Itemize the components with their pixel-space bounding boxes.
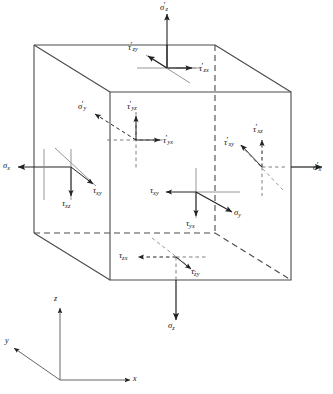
tau-xy-prime-label: τ′xy [224, 136, 234, 147]
sigma-y-prime-arrow [95, 114, 136, 140]
sigma-z-label: σz [168, 321, 175, 331]
tau-zx-prime-label: τ′zx [199, 62, 209, 73]
y-axis-label: y [5, 337, 9, 345]
tau-xy-label: τxy [93, 186, 102, 196]
tau-zy-label: τzy [191, 267, 200, 277]
stress-diagram-canvas [0, 0, 333, 394]
coordinate-axes [14, 308, 130, 380]
tau-zy-arrow [176, 257, 191, 269]
sigma-y-label: σy [234, 208, 241, 218]
tau-xz-prime-label: τ′xz [253, 123, 263, 134]
cube-hidden-edges [34, 45, 291, 280]
sigma-y-prime-label: σ′y [78, 100, 87, 111]
y-axis-arrow [14, 348, 60, 380]
back-left-face-stress-arrows [95, 112, 165, 168]
bottom-face-stress-arrows [138, 238, 206, 320]
tau-yx-prime-label: τ′yx [163, 134, 173, 145]
tau-yz-prime-label: τ′yz [127, 100, 137, 111]
top-face-stress-arrows [137, 14, 200, 83]
tau-xy-prime-arrow [241, 145, 262, 167]
tau-xy-arrow [71, 167, 93, 184]
left-face-stress-arrows [18, 148, 96, 200]
sigma-y-arrow [196, 192, 232, 212]
tau-zx-label: τzx [119, 251, 128, 261]
sigma-x-label: σx [3, 161, 10, 171]
tau-xz-label: τxz [62, 199, 71, 209]
cube-solid-edges [34, 45, 291, 280]
tau-xy-front-label: τxy [150, 186, 159, 196]
stress-element-figure: σ′z τ′zy τ′zx σ′y τ′yz τ′yx τ′xz τ′xy σ′… [0, 0, 333, 394]
front-face-stress-arrows [166, 168, 240, 218]
right-face-stress-arrows [238, 140, 322, 196]
tau-zy-prime-label: τ′zy [128, 41, 138, 52]
sigma-z-prime-label: σ′z [160, 1, 168, 12]
tau-yx-label: τyx [186, 219, 195, 229]
sigma-x-prime-label: σ′x [313, 161, 322, 172]
x-axis-label: x [133, 375, 137, 383]
tau-zy-prime-arrow [148, 56, 167, 68]
z-axis-label: z [54, 295, 57, 303]
